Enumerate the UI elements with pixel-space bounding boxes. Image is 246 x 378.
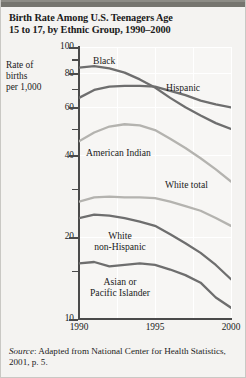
y-axis-tick	[69, 155, 78, 157]
series-label-black: Black	[93, 56, 115, 67]
series-label-american-indian: American Indian	[86, 148, 151, 159]
y-axis-minor-tick	[72, 59, 78, 60]
source-text: : Adapted from National Center for Healt…	[9, 346, 226, 367]
y-axis-minor-tick	[72, 89, 78, 90]
series-line	[79, 86, 231, 108]
x-axis-tick-label: 1995	[135, 322, 175, 332]
x-axis-tick-label: 2000	[211, 322, 246, 332]
y-axis-tick	[69, 319, 78, 321]
series-label-line: Pacific Islander	[0, 288, 243, 299]
y-axis-tick	[69, 73, 78, 75]
y-axis-minor-tick	[72, 271, 78, 272]
source-prefix: Source	[9, 346, 34, 356]
series-label-white-non-hispanic: Whitenon-Hispanic	[0, 231, 243, 252]
figure-container: Birth Rate Among U.S. Teenagers Age 15 t…	[0, 0, 246, 378]
series-label-line: non-Hispanic	[0, 242, 243, 253]
series-label-hispanic: Hispanic	[166, 83, 200, 94]
y-axis-minor-tick	[72, 129, 78, 130]
border-left	[0, 0, 1, 378]
y-axis-minor-tick	[72, 189, 78, 190]
x-axis-tick-label: 1990	[59, 322, 99, 332]
series-line	[79, 197, 231, 226]
series-line	[79, 66, 231, 129]
y-axis-tick	[69, 47, 78, 49]
border-right	[245, 0, 246, 378]
series-label-line: Asian or	[0, 277, 243, 288]
series-label-line: White	[0, 231, 243, 242]
series-label-white-total: White total	[165, 180, 208, 191]
series-label-asian-or-pacific-islander: Asian orPacific Islander	[0, 277, 243, 298]
source-note: Source: Adapted from National Center for…	[9, 346, 241, 368]
y-axis-tick	[69, 107, 78, 109]
